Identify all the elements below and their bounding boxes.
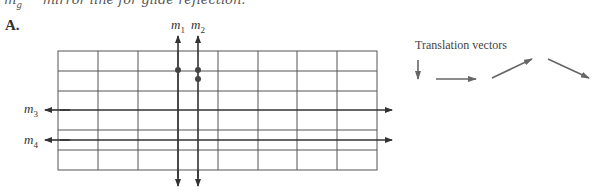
- vector-down-right-icon: [548, 59, 589, 78]
- point-m2-upper: [195, 67, 201, 73]
- points: [175, 67, 201, 82]
- point-m1: [175, 67, 181, 73]
- translation-vectors: [418, 59, 589, 79]
- diagram-canvas: [0, 0, 592, 192]
- point-m2-lower: [195, 76, 201, 82]
- vector-up-right-icon: [492, 59, 532, 78]
